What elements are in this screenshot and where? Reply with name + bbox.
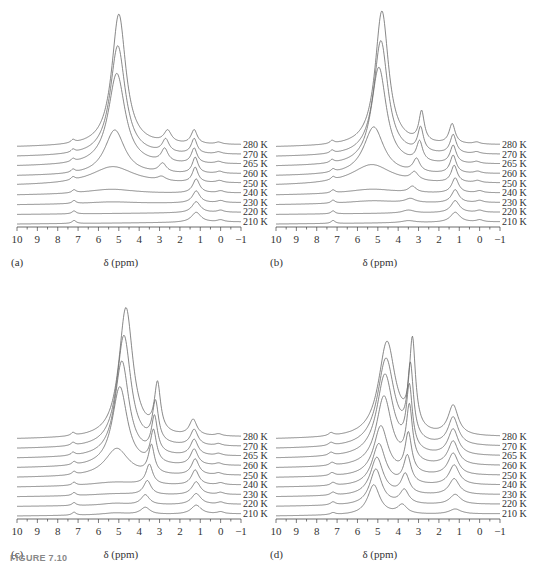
spectrum-trace — [276, 11, 500, 146]
spectrum-trace — [17, 191, 241, 205]
x-tick-label: 7 — [334, 525, 340, 537]
spectrum-trace — [276, 201, 500, 215]
spectrum-trace — [17, 73, 241, 165]
x-tick-label: 8 — [55, 525, 61, 537]
spectrum-trace — [276, 67, 500, 165]
panel-b: 280 K270 K265 K260 K250 K240 K230 K220 K… — [259, 0, 526, 282]
temperature-label: 210 K — [502, 508, 527, 519]
x-tick-label: 8 — [55, 233, 61, 245]
spectrum-trace — [17, 167, 241, 185]
spectrum-trace — [17, 494, 241, 507]
x-tick-label: 9 — [294, 233, 300, 245]
spectrum-trace — [276, 127, 500, 175]
x-tick-label: 5 — [116, 525, 122, 537]
x-tick-label: 6 — [96, 233, 102, 245]
x-axis-title: δ (ppm) — [362, 256, 397, 268]
x-tick-label: 5 — [116, 233, 122, 245]
x-tick-label: 3 — [157, 233, 163, 245]
spectrum-trace — [276, 336, 500, 438]
figure-caption: FIGURE 7.10 — [10, 553, 67, 563]
x-tick-label: 0 — [477, 233, 483, 245]
x-tick-label: 4 — [136, 233, 142, 245]
spectrum-trace — [276, 457, 500, 496]
spectrum-trace — [17, 46, 241, 156]
x-tick-label: −1 — [235, 233, 247, 245]
spectrum-trace — [276, 485, 500, 516]
panel-label: (b) — [270, 256, 283, 268]
x-tick-label: 10 — [271, 525, 282, 537]
x-tick-label: 8 — [314, 525, 320, 537]
x-tick-label: 5 — [375, 233, 381, 245]
x-tick-label: 1 — [457, 525, 463, 537]
x-tick-label: 2 — [177, 525, 183, 537]
spectrum-trace — [17, 444, 241, 477]
x-tick-label: 0 — [218, 233, 224, 245]
x-tick-label: 0 — [218, 525, 224, 537]
x-tick-label: 10 — [12, 525, 23, 537]
x-tick-label: 3 — [416, 233, 422, 245]
x-tick-label: 6 — [96, 525, 102, 537]
spectrum-trace — [276, 358, 500, 448]
x-tick-label: 9 — [35, 233, 41, 245]
spectrum-trace — [17, 335, 241, 448]
x-tick-label: 7 — [75, 233, 81, 245]
x-tick-label: 4 — [136, 525, 142, 537]
panel-d: 280 K270 K265 K260 K250 K240 K230 K220 K… — [259, 292, 526, 565]
x-axis-title: δ (ppm) — [103, 256, 138, 268]
spectrum-trace — [276, 178, 500, 195]
x-tick-label: 1 — [198, 525, 204, 537]
x-tick-label: 0 — [477, 525, 483, 537]
x-tick-label: 1 — [457, 233, 463, 245]
x-tick-label: 7 — [75, 525, 81, 537]
x-tick-label: 2 — [436, 233, 442, 245]
x-tick-label: −1 — [494, 525, 506, 537]
x-axis-title: δ (ppm) — [362, 548, 397, 560]
x-tick-label: 9 — [35, 525, 41, 537]
x-tick-label: 2 — [177, 233, 183, 245]
x-axis-title: δ (ppm) — [103, 548, 138, 560]
spectrum-trace — [276, 165, 500, 185]
spectrum-trace — [17, 361, 241, 458]
x-tick-label: 9 — [294, 525, 300, 537]
spectrum-trace — [276, 190, 500, 205]
x-tick-label: 6 — [355, 233, 361, 245]
x-tick-label: 3 — [416, 525, 422, 537]
x-tick-label: −1 — [235, 525, 247, 537]
spectrum-trace — [276, 443, 500, 487]
panel-label: (d) — [270, 548, 283, 560]
x-tick-label: 6 — [355, 525, 361, 537]
x-tick-label: 8 — [314, 233, 320, 245]
temperature-label: 210 K — [502, 216, 527, 227]
spectrum-trace — [276, 469, 500, 506]
spectrum-trace — [276, 426, 500, 478]
x-tick-label: 2 — [436, 525, 442, 537]
x-tick-label: 5 — [375, 525, 381, 537]
spectrum-trace — [17, 464, 241, 487]
spectrum-trace — [17, 505, 241, 516]
x-tick-label: 10 — [12, 233, 23, 245]
x-tick-label: 10 — [271, 233, 282, 245]
x-tick-label: 3 — [157, 525, 163, 537]
panel-c: 280 K270 K265 K260 K250 K240 K230 K220 K… — [0, 292, 267, 565]
panel-a: 280 K270 K265 K260 K250 K240 K230 K220 K… — [0, 0, 267, 282]
x-tick-label: 1 — [198, 233, 204, 245]
x-tick-label: 4 — [395, 525, 401, 537]
x-tick-label: −1 — [494, 233, 506, 245]
spectrum-trace — [17, 308, 241, 439]
panel-label: (a) — [11, 256, 23, 268]
x-tick-label: 7 — [334, 233, 340, 245]
x-tick-label: 4 — [395, 233, 401, 245]
